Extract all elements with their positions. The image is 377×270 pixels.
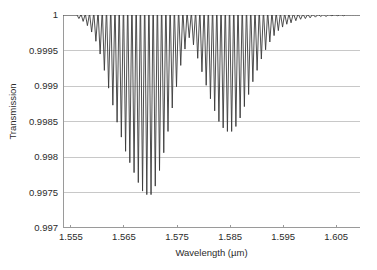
- y-tick-label: 0.9985: [29, 117, 58, 127]
- y-tick-label: 0.9995: [29, 46, 58, 56]
- x-tick-label: 1.555: [59, 231, 83, 242]
- transmission-spectrum-chart: 0.9970.99750.9980.99850.9990.99951 1.555…: [0, 0, 377, 270]
- x-tick-label: 1.565: [112, 231, 136, 242]
- x-axis-tick-labels: 1.5551.5651.5751.5851.5951.605: [0, 231, 377, 245]
- y-axis-title: Transmission: [7, 62, 18, 162]
- y-tick-label: 1: [53, 10, 58, 20]
- x-tick-label: 1.595: [271, 231, 295, 242]
- transmission-series-line: [63, 15, 360, 195]
- x-tick-label: 1.585: [218, 231, 242, 242]
- x-tick-label: 1.575: [165, 231, 189, 242]
- x-axis-title: Wavelength (µm): [63, 247, 360, 258]
- x-tick-label: 1.605: [324, 231, 348, 242]
- y-tick-label: 0.999: [34, 81, 58, 91]
- plot-svg: [63, 15, 360, 228]
- y-tick-label: 0.9975: [29, 188, 58, 198]
- y-tick-label: 0.998: [34, 152, 58, 162]
- plot-area: [63, 15, 360, 228]
